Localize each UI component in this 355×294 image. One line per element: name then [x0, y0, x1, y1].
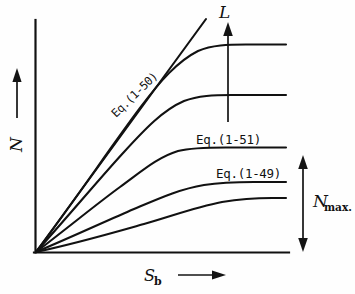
- nmax-range-arrow-head-up: [298, 155, 308, 169]
- x-axis-label-sub: b: [154, 275, 162, 288]
- figure-container: L Eq.(1-50) Eq.(1-51) Eq.(1-49) N max. N…: [0, 0, 355, 294]
- curve-5-bottom: [36, 198, 286, 252]
- saturation-curve-figure: L Eq.(1-50) Eq.(1-51) Eq.(1-49) N max. N…: [0, 0, 355, 294]
- l-range-arrow-head-up: [223, 22, 233, 36]
- eq-1-50-label: Eq.(1-50): [108, 69, 160, 120]
- nmax-range-arrow: [298, 155, 308, 252]
- y-axis-arrow: [12, 68, 21, 118]
- tangent-line-label: L: [218, 2, 230, 22]
- curve-4: [36, 182, 286, 252]
- x-axis-label-group: S b: [144, 266, 162, 288]
- l-range-arrow: [223, 22, 233, 122]
- nmax-range-arrow-head-down: [298, 238, 308, 252]
- eq-1-50-label-group: Eq.(1-50): [108, 69, 160, 120]
- nmax-label-group: N max.: [312, 191, 352, 213]
- y-axis-label: N: [6, 136, 26, 153]
- x-axis-arrow-head-right: [212, 270, 226, 279]
- curves-group: [36, 45, 286, 253]
- nmax-label-sub: max.: [324, 201, 352, 213]
- eq-1-49-label: Eq.(1-49): [216, 166, 281, 181]
- y-axis-label-group: N: [6, 136, 26, 153]
- eq-1-51-label: Eq.(1-51): [196, 132, 261, 147]
- y-axis-arrow-head-up: [12, 68, 21, 82]
- x-axis-arrow: [178, 270, 226, 279]
